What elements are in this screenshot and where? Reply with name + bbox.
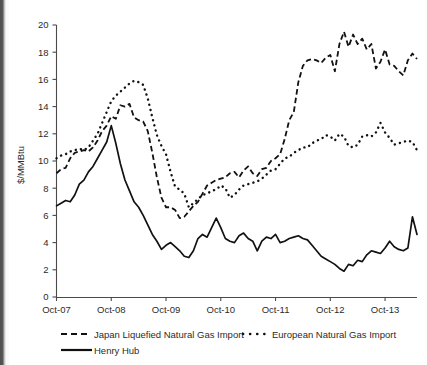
x-tick-label: Oct-08 <box>97 304 126 315</box>
series-european-gas-import <box>57 81 418 207</box>
y-tick-label: 6 <box>43 210 48 221</box>
y-tick-label: 4 <box>43 237 48 248</box>
series-japan-lng-import <box>57 32 418 218</box>
line-chart: $/MMBtu 02468101214161820 Oct-07Oct-08Oc… <box>0 0 427 365</box>
y-tick-label: 20 <box>38 19 49 30</box>
x-axis: Oct-07Oct-08Oct-09Oct-10Oct-11Oct-12Oct-… <box>42 297 417 315</box>
y-tick-label: 18 <box>38 47 49 58</box>
x-tick-label: Oct-12 <box>316 304 345 315</box>
y-axis-title-text: $/MMBtu <box>15 146 26 184</box>
x-tick-label: Oct-13 <box>371 304 400 315</box>
y-tick-label: 8 <box>43 183 48 194</box>
x-tick-group: Oct-07Oct-08Oct-09Oct-10Oct-11Oct-12Oct-… <box>42 297 399 315</box>
y-axis: 02468101214161820 <box>38 19 57 302</box>
y-tick-label: 2 <box>43 264 48 275</box>
y-tick-label: 0 <box>43 291 48 302</box>
legend-label-european: European Natural Gas Import <box>272 329 396 340</box>
y-axis-title: $/MMBtu <box>15 146 26 184</box>
y-tick-label: 10 <box>38 155 49 166</box>
y-tick-group: 02468101214161820 <box>38 19 57 302</box>
x-tick-label: Oct-10 <box>207 304 236 315</box>
legend-label-japan: Japan Liquefied Natural Gas Import <box>94 329 244 340</box>
chart-figure: $/MMBtu 02468101214161820 Oct-07Oct-08Oc… <box>0 0 427 365</box>
x-tick-label: Oct-11 <box>262 304 290 315</box>
x-tick-label: Oct-07 <box>42 304 71 315</box>
x-tick-label: Oct-09 <box>152 304 181 315</box>
series-group <box>57 32 418 271</box>
y-tick-label: 12 <box>38 128 49 139</box>
chart-legend: Japan Liquefied Natural Gas Import Europ… <box>61 329 396 356</box>
y-tick-label: 16 <box>38 74 49 85</box>
series-henry-hub <box>57 126 418 272</box>
y-tick-label: 14 <box>38 101 49 112</box>
legend-label-henry-hub: Henry Hub <box>94 345 139 356</box>
